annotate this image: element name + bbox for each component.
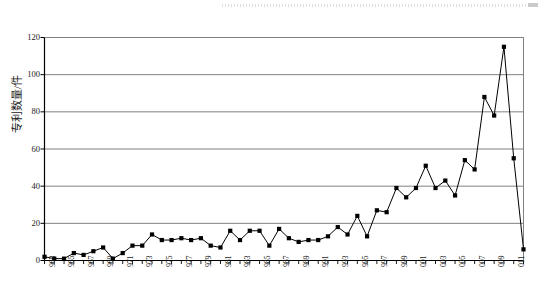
x-tick-label: 973 <box>145 255 154 266</box>
x-tick-label: 981 <box>224 255 233 266</box>
x-tick-label: 989 <box>302 255 311 266</box>
x-tick-label: 007 <box>478 255 487 266</box>
x-tick-label: 987 <box>282 255 291 266</box>
x-tick-label: 977 <box>185 255 194 266</box>
x-tick-label: 969 <box>106 255 115 266</box>
x-tick-label: 995 <box>361 255 370 266</box>
x-tick-label: 999 <box>400 255 409 266</box>
x-axis-tick-labels: 9639659679699719739759779799819839859879… <box>0 0 541 281</box>
x-tick-label: 979 <box>204 255 213 266</box>
x-tick-label: 983 <box>243 255 252 266</box>
x-tick-label: 965 <box>67 255 76 266</box>
x-tick-label: 993 <box>341 255 350 266</box>
x-tick-label: 005 <box>458 255 467 266</box>
x-tick-label: 997 <box>380 255 389 266</box>
x-tick-label: 971 <box>126 255 135 266</box>
x-tick-label: 991 <box>321 255 330 266</box>
x-tick-label: 975 <box>165 255 174 266</box>
x-tick-label: 963 <box>48 255 57 266</box>
x-tick-label: 003 <box>439 255 448 266</box>
x-tick-label: 967 <box>87 255 96 266</box>
x-tick-label: 985 <box>263 255 272 266</box>
x-tick-label: 001 <box>419 255 428 266</box>
x-tick-label: 009 <box>497 255 506 266</box>
patent-count-line-chart: 专利数量/件 020406080100120 96396596796997197… <box>0 0 541 281</box>
x-tick-label: 011 <box>517 255 526 266</box>
